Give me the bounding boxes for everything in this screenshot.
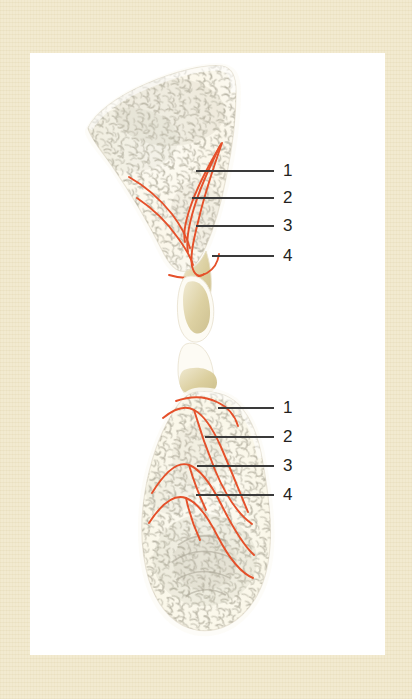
label-upper-2: 2 [283,189,292,206]
label-lower-4: 4 [283,486,292,503]
anatomical-figure [0,0,412,699]
lower-bone-group [135,385,285,640]
label-upper-3: 3 [283,217,292,234]
label-upper-1: 1 [283,162,292,179]
intermediate-joint-group [177,276,217,402]
label-lower-1: 1 [283,399,292,416]
upper-trabeculae [80,60,250,280]
label-lower-2: 2 [283,428,292,445]
label-upper-4: 4 [283,247,292,264]
label-lower-3: 3 [283,457,292,474]
figure-page: 1 2 3 4 1 2 3 4 [0,0,412,699]
upper-bone-group [80,60,250,317]
